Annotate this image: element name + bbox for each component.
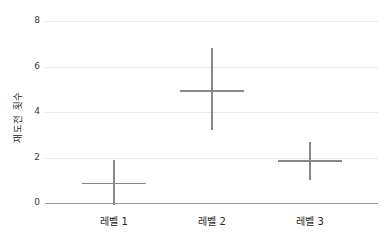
x-axis-line [45,203,378,204]
mean-line-horizontal [180,90,244,92]
gridline [45,158,378,159]
x-category-label: 레벨 3 [275,213,345,228]
chart: 재도전 횟수 02468 레벨 1레벨 2레벨 3 [0,0,392,238]
y-tick-label: 4 [16,106,40,117]
y-tick-label: 2 [16,152,40,163]
y-tick-label: 6 [16,61,40,72]
y-axis-title: 재도전 횟수 [10,91,24,142]
error-bar-vertical [211,48,213,130]
mean-line-horizontal [82,183,146,185]
y-tick-label: 8 [16,15,40,26]
y-tick-label: 0 [16,197,40,208]
gridline [45,21,378,22]
x-category-label: 레벨 1 [79,213,149,228]
x-category-label: 레벨 2 [177,213,247,228]
mean-line-horizontal [278,160,342,162]
